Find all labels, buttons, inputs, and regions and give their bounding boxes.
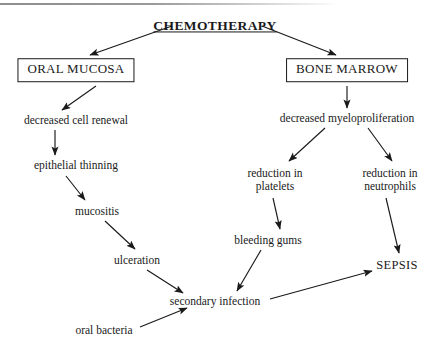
node-neutrophils: reduction in neutrophils [351,167,429,193]
arrow-mucositis-to-ulceration [105,221,135,249]
node-oral-mucosa: ORAL MUCOSA [17,58,134,82]
arrow-epithelial-to-mucositis [66,176,85,200]
node-sepsis: SEPSIS [376,258,417,272]
arrow-oral-mucosa-to-cell-renewal [62,86,96,110]
node-platelets: reduction in platelets [236,167,314,193]
chemotherapy-flowchart: CHEMOTHERAPYORAL MUCOSABONE MARROWdecrea… [0,0,437,358]
arrow-neutrophils-to-sepsis [386,198,399,253]
arrow-myeloprolif-to-platelets [289,128,325,161]
node-mucositis: mucositis [75,205,119,218]
arrow-bleeding-gums-to-secondary-inf [237,250,261,291]
node-cell-renewal: decreased cell renewal [24,114,128,127]
node-ulceration: ulceration [114,254,160,267]
arrow-platelets-to-bleeding-gums [273,198,280,229]
node-secondary-inf: secondary infection [170,295,260,308]
arrow-myeloprolif-to-neutrophils [368,128,392,161]
arrow-secondary-inf-to-sepsis [270,271,372,299]
node-myeloprolif: decreased myeloproliferation [280,112,414,125]
node-chemotherapy: CHEMOTHERAPY [153,18,276,33]
node-epithelial: epithelial thinning [34,159,118,172]
node-bone-marrow: BONE MARROW [286,58,408,82]
arrow-ulceration-to-secondary-inf [147,270,183,293]
arrow-oral-bacteria-to-secondary-inf [140,308,187,327]
node-oral-bacteria: oral bacteria [75,324,132,337]
node-bleeding-gums: bleeding gums [234,234,301,247]
